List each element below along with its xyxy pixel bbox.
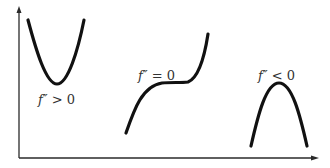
x-axis-arrow-icon — [311, 156, 319, 161]
concave-label-relation: < 0 — [268, 68, 295, 83]
inflection-label-fn: f″ — [137, 68, 148, 83]
convex-curve — [28, 20, 84, 84]
inflection-curve-group: f″ = 0 — [126, 34, 208, 133]
convex-label: f″ > 0 — [37, 92, 75, 107]
inflection-curve — [126, 34, 208, 133]
concave-label: f″ < 0 — [257, 68, 295, 83]
inflection-label: f″ = 0 — [137, 68, 175, 83]
concave-curve-group: f″ < 0 — [251, 68, 307, 146]
convex-label-fn: f″ — [37, 92, 48, 107]
convex-curve-group: f″ > 0 — [28, 20, 84, 107]
y-axis-arrow-icon — [17, 6, 22, 13]
concave-curve — [251, 83, 307, 146]
inflection-label-relation: = 0 — [148, 68, 175, 83]
concave-label-fn: f″ — [257, 68, 268, 83]
curvature-diagram: f″ > 0 f″ = 0 f″ < 0 — [0, 0, 330, 168]
convex-label-relation: > 0 — [48, 92, 75, 107]
